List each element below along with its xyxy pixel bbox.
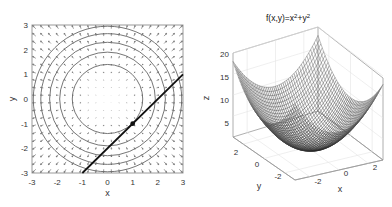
- y-tick: -1: [21, 120, 29, 129]
- x-tick: -3: [28, 178, 36, 187]
- y-tick: -2: [21, 144, 29, 153]
- x-tick: -2: [54, 178, 62, 187]
- x-axis-label: x: [105, 188, 110, 198]
- y-tick: -3: [21, 169, 29, 178]
- x-tick: 2: [373, 163, 378, 172]
- y-axis-label-3d: y: [257, 181, 262, 191]
- x-tick: 0: [105, 178, 110, 187]
- y-tick: 2: [24, 46, 29, 55]
- point-marker: [130, 121, 135, 126]
- y-tick: -2: [274, 172, 282, 181]
- x-tick: -1: [79, 178, 87, 187]
- z-tick: 5: [225, 119, 230, 128]
- z-tick: 20: [220, 50, 229, 59]
- x3d-ticks: -2 0 2: [314, 163, 377, 186]
- z-ticks: 20 15 10 5: [220, 50, 229, 128]
- x-tick: 0: [344, 169, 349, 178]
- left-y-ticks: 3 2 1 0 -1 -2 -3: [21, 21, 29, 178]
- y-tick: 1: [24, 70, 29, 79]
- y-tick: 0: [255, 160, 260, 169]
- x-tick: -2: [314, 177, 322, 186]
- y-tick: 3: [24, 21, 29, 30]
- surface-title: f(x,y)=x2+y2: [266, 13, 311, 23]
- x-axis-label-3d: x: [338, 184, 343, 194]
- left-x-ticks: -3 -2 -1 0 1 2 3: [28, 178, 185, 187]
- left-axes-frame: [32, 25, 183, 173]
- x-tick: 1: [130, 178, 135, 187]
- z-tick: 15: [220, 73, 229, 82]
- y-tick: 2: [234, 148, 239, 157]
- y-axis-label: y: [7, 96, 17, 101]
- z-tick: 10: [220, 96, 229, 105]
- y-tick: 0: [24, 95, 29, 104]
- surface-plot: f(x,y)=x2+y2 20 15 10 5 z 2 0 -2 y -2 0 …: [201, 13, 383, 194]
- contour-plot: 3 2 1 0 -1 -2 -3 -3 -2 -1 0 1 2 3 x y: [7, 21, 186, 198]
- x-tick: 2: [156, 178, 161, 187]
- figure: 3 2 1 0 -1 -2 -3 -3 -2 -1 0 1 2 3 x y: [0, 0, 392, 207]
- y3d-ticks: 2 0 -2: [234, 148, 282, 181]
- x-tick: 3: [181, 178, 186, 187]
- z-axis-label: z: [201, 95, 211, 100]
